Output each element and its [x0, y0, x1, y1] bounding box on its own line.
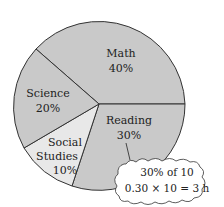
label-math-pct: 40% — [109, 62, 133, 75]
label-social-pct: 10% — [53, 164, 77, 177]
callout-line1: 30% of 10 — [140, 166, 194, 178]
label-social: Social — [48, 136, 82, 149]
label-science: Science — [26, 87, 69, 100]
pie-chart: Math 40% Science 20% Reading 30% Social … — [0, 0, 224, 207]
label-math: Math — [106, 47, 135, 60]
label-reading: Reading — [106, 114, 152, 127]
label-studies: Studies — [36, 150, 78, 163]
label-reading-pct: 30% — [117, 129, 141, 142]
callout-line2: 0.30 × 10 = 3 h — [125, 182, 210, 194]
label-science-pct: 20% — [36, 102, 60, 115]
